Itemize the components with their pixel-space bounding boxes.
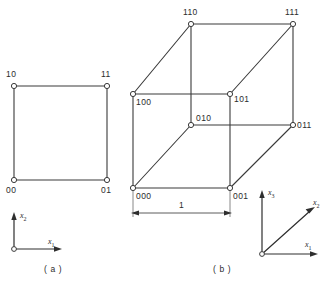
cube-vertex-110 xyxy=(188,21,193,26)
square-label-00: 00 xyxy=(6,186,16,195)
cube-axis-origin xyxy=(260,252,265,257)
square-vertex-10 xyxy=(11,83,16,88)
cube-label-111: 111 xyxy=(285,8,299,17)
cube-label-100: 100 xyxy=(136,98,151,107)
square-vertex-00 xyxy=(11,177,16,182)
square-vertex-11 xyxy=(104,83,109,88)
square-vertex-01 xyxy=(104,177,109,182)
cube-vertex-101 xyxy=(227,91,232,96)
axis-label-x2-square: x2 xyxy=(20,212,27,222)
axis-x2-sub-cube: 2 xyxy=(317,203,320,209)
caption-b: ( b ) xyxy=(213,265,231,274)
square-edges xyxy=(14,86,107,180)
caption-a: ( a ) xyxy=(44,265,62,274)
cube-label-011: 011 xyxy=(297,121,312,130)
axis-x3-sub: 3 xyxy=(272,193,275,199)
cube-label-001: 001 xyxy=(233,192,248,201)
cube-label-110: 110 xyxy=(183,8,198,17)
cube-vertex-001 xyxy=(227,185,232,190)
cube-vertex-100 xyxy=(130,91,135,96)
cube-vertex-000 xyxy=(130,185,135,190)
cube-depth-edges xyxy=(133,24,293,188)
dimension-label: 1 xyxy=(179,201,184,210)
axis-label-x1-cube: x1 xyxy=(305,241,312,251)
cube-vertex-011 xyxy=(290,122,295,127)
cube-front-face-edges xyxy=(133,94,230,188)
cube-vertex-111 xyxy=(290,21,295,26)
square-label-01: 01 xyxy=(101,186,111,195)
square-label-11: 11 xyxy=(101,70,111,79)
axis-x2-sub: 2 xyxy=(24,216,27,222)
figure-container: 10 11 00 01 x2 x1 110 111 100 101 010 01… xyxy=(0,0,331,287)
cube-label-101: 101 xyxy=(234,95,249,104)
axis-label-x1-square: x1 xyxy=(48,238,55,248)
square-axis-origin xyxy=(12,247,17,252)
axis-x1-sub: 1 xyxy=(52,242,55,248)
cube-label-010: 010 xyxy=(196,114,211,123)
cube-vertices xyxy=(130,21,295,190)
square-label-10: 10 xyxy=(6,70,16,79)
cube-vertex-010 xyxy=(188,122,193,127)
square-vertices xyxy=(11,83,109,182)
axis-x1-sub-cube: 1 xyxy=(309,245,312,251)
cube-label-000: 000 xyxy=(136,192,151,201)
axis-label-x3-cube: x3 xyxy=(268,189,275,199)
axis-label-x2-cube: x2 xyxy=(313,199,320,209)
cube-back-face-edges xyxy=(191,24,293,125)
